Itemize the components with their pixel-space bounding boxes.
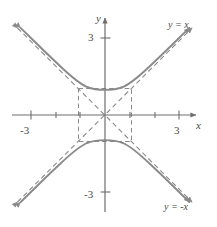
y-axis-label: y xyxy=(96,13,101,24)
asymptote-positive-label: y = x xyxy=(168,20,189,30)
x-axis-label: x xyxy=(196,120,201,131)
y-tick-label-neg3: -3 xyxy=(84,189,93,200)
y-tick-label-3: 3 xyxy=(88,32,94,43)
asymptote-negative-label: y = -x xyxy=(164,202,188,212)
hyperbola-figure: y x 3 -3 -3 3 y = x y = -x xyxy=(0,0,217,227)
x-tick-label-3: 3 xyxy=(174,125,180,136)
x-tick-label-neg3: -3 xyxy=(20,125,29,136)
plot-canvas xyxy=(0,0,217,227)
